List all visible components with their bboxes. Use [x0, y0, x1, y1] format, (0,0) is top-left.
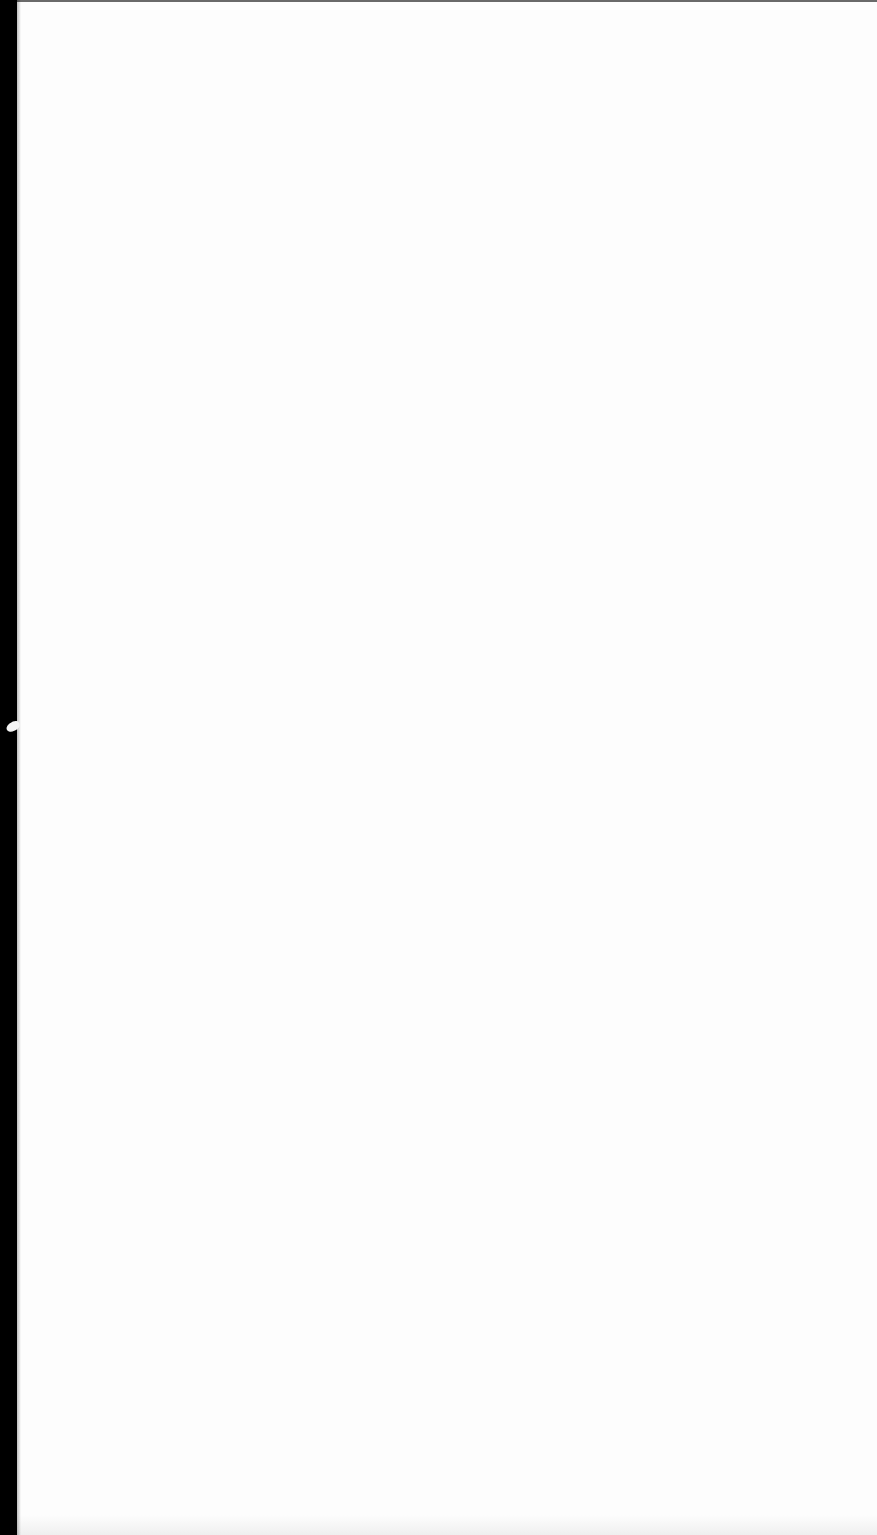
paper-edge-shadow — [17, 0, 21, 1535]
blank-paper-page — [17, 0, 877, 1535]
scanned-document — [0, 0, 877, 1535]
